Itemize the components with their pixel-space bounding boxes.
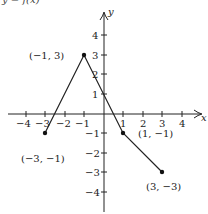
function-graph: y = f(x) x y −4 −3 −2 −1 1 2 3 4 4 3 <box>0 0 208 214</box>
point-label: (1, −1) <box>138 128 173 139</box>
point-marker <box>43 131 47 135</box>
y-tick-label: 3 <box>92 50 98 61</box>
y-axis-label: y <box>107 6 114 17</box>
y-tick-label: −2 <box>85 148 100 159</box>
y-tick-label: −3 <box>85 167 100 178</box>
x-axis <box>8 110 202 118</box>
x-tick-label: −2 <box>56 118 71 129</box>
x-tick-label: 1 <box>120 118 126 129</box>
y-tick-label: 1 <box>92 89 98 100</box>
y-tick-label: −4 <box>85 187 100 198</box>
point-label: (−1, 3) <box>29 50 64 61</box>
point-marker <box>160 170 164 174</box>
y-axis <box>100 12 108 212</box>
point-marker <box>121 131 125 135</box>
x-tick-label: −4 <box>16 118 31 129</box>
x-axis-label: x <box>201 112 207 123</box>
point-label: (3, −3) <box>146 181 181 192</box>
point-label: (−3, −1) <box>21 153 65 164</box>
x-tick-label: 4 <box>179 118 185 129</box>
y-tick-label: 4 <box>92 30 98 41</box>
graph-caption: y = f(x) <box>1 0 40 5</box>
point-marker <box>82 53 86 57</box>
y-tick-label: −1 <box>85 128 100 139</box>
